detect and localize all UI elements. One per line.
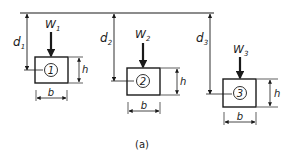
submerged-blocks-diagram: d1 W1 1 h b d2 W2 2 h b [0,0,295,159]
depth-label-2: d2 [100,31,113,47]
block-number-1: 1 [48,65,54,76]
figure-caption: (a) [135,139,149,150]
block-1-group: d1 W1 1 h b [13,14,88,101]
depth-label-1: d1 [13,35,25,51]
load-label-1: W1 [45,18,60,33]
load-label-3: W3 [233,43,248,58]
block-2-group: d2 W2 2 h b [100,14,186,114]
height-label-3: h [274,88,280,99]
width-label-3: b [237,111,243,122]
width-label-1: b [48,87,54,98]
height-label-2: h [180,76,186,87]
width-label-2: b [141,100,147,111]
height-label-1: h [82,64,88,75]
depth-label-3: d3 [196,31,208,47]
load-label-2: W2 [135,28,151,43]
block-number-2: 2 [140,76,146,87]
block-3-group: d3 W3 3 h b [196,14,280,125]
block-number-3: 3 [237,88,243,99]
